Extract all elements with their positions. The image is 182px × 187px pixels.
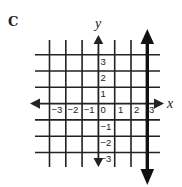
y-tick: 3 xyxy=(101,56,106,67)
y-tick: −2 xyxy=(101,137,112,148)
line-down-arrow-icon xyxy=(141,169,155,185)
x-axis-left-arrow-icon xyxy=(30,99,40,109)
y-tick: −3 xyxy=(101,153,112,164)
x-tick: 0 xyxy=(101,104,106,115)
x-tick: 3 xyxy=(149,104,154,115)
x-tick-labels: −3 −2 −1 0 1 2 3 xyxy=(52,104,155,115)
x-tick: −1 xyxy=(84,104,95,115)
line-up-arrow-icon xyxy=(141,29,155,44)
y-axis-label: y xyxy=(93,16,102,31)
y-tick: −1 xyxy=(101,121,112,132)
y-axis-up-arrow-icon xyxy=(94,35,104,44)
y-tick: 1 xyxy=(101,88,106,99)
x-axis-right-arrow-icon xyxy=(154,99,164,109)
x-tick: 1 xyxy=(118,104,123,115)
x-tick: −3 xyxy=(52,104,63,115)
x-tick: 2 xyxy=(134,104,139,115)
x-axis-label: x xyxy=(166,96,174,111)
y-tick: 2 xyxy=(101,72,106,83)
coordinate-grid-diagram: C x y −3 −2 −1 0 1 2 3 xyxy=(0,0,182,187)
x-tick: −2 xyxy=(68,104,79,115)
panel-label: C xyxy=(8,14,18,29)
